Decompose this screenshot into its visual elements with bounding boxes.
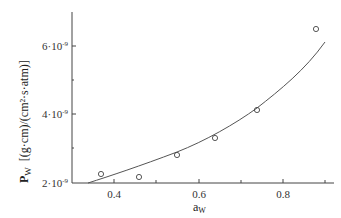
x-tick-label-04: 0.4 [107, 188, 121, 200]
x-tick-label-06: 0.6 [192, 188, 206, 200]
data-point [313, 26, 318, 31]
data-point [212, 135, 217, 140]
y-tick-label-4: 4·10-9 [42, 108, 69, 120]
data-points [98, 26, 318, 179]
fit-curve [88, 42, 325, 183]
y-tick-label-6: 6·10-9 [42, 40, 69, 52]
data-point [98, 171, 103, 176]
y-tick-label-2: 2·10-9 [42, 177, 69, 189]
y-axis-label: PW[(g·cm)/(cm²·s·atm)] [17, 60, 33, 183]
data-point [136, 174, 141, 179]
svg-text:PW[(g·cm)/(cm²·s·atm)]: PW[(g·cm)/(cm²·s·atm)] [17, 60, 33, 183]
x-tick-label-08: 0.8 [276, 188, 290, 200]
axes [72, 12, 334, 183]
data-point [174, 152, 179, 157]
x-axis-label: aW [193, 200, 206, 215]
chart-canvas: 6·10-9 4·10-9 2·10-9 0.4 0.6 0.8 aW PW[(… [0, 0, 341, 218]
